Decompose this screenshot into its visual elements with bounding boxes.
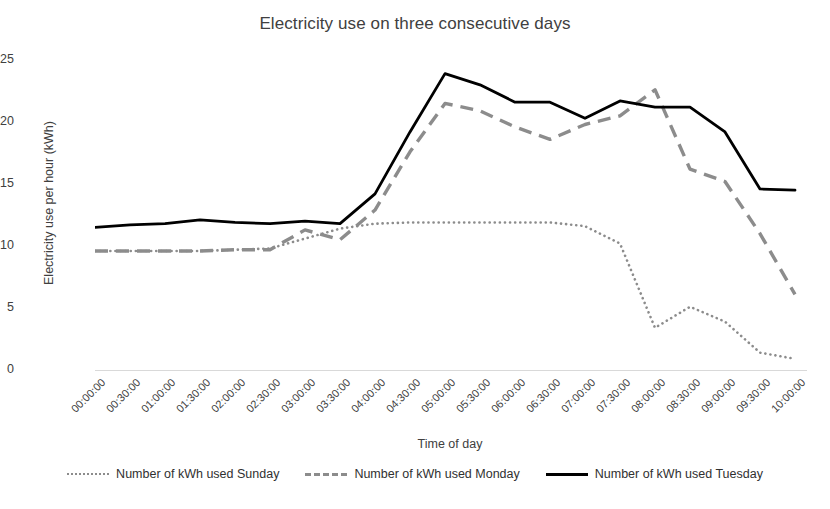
- x-axis-line: [95, 370, 807, 371]
- chart-container: Electricity use on three consecutive day…: [0, 0, 830, 509]
- x-axis-ticks: 00:00:0000:30:0001:00:0001:30:0002:00:00…: [0, 376, 830, 436]
- y-axis-tick-label: 25: [0, 52, 14, 66]
- chart-title: Electricity use on three consecutive day…: [0, 14, 830, 34]
- y-axis-title: Electricity use per hour (kWh): [42, 58, 56, 348]
- legend-item[interactable]: Number of kWh used Sunday: [67, 468, 279, 481]
- y-axis-tick-label: 0: [0, 362, 14, 376]
- y-axis-tick-label: 20: [0, 114, 14, 128]
- legend-item[interactable]: Number of kWh used Monday: [305, 468, 519, 481]
- chart-legend: Number of kWh used SundayNumber of kWh u…: [0, 468, 830, 481]
- y-axis-tick-label: 15: [0, 176, 14, 190]
- series-line: [95, 74, 795, 228]
- series-lines: [95, 60, 805, 370]
- legend-label: Number of kWh used Tuesday: [595, 468, 763, 481]
- y-axis-tick-label: 5: [0, 300, 14, 314]
- series-line: [95, 222, 795, 358]
- legend-swatch-dotted: [67, 473, 109, 475]
- legend-item[interactable]: Number of kWh used Tuesday: [546, 468, 763, 481]
- legend-label: Number of kWh used Monday: [354, 468, 519, 481]
- x-axis-title: Time of day: [95, 437, 805, 451]
- series-line: [95, 90, 795, 295]
- y-axis-tick-label: 10: [0, 238, 14, 252]
- legend-swatch-solid: [546, 473, 588, 476]
- legend-label: Number of kWh used Sunday: [116, 468, 279, 481]
- legend-swatch-dashed: [305, 473, 347, 476]
- plot-area: [95, 60, 805, 370]
